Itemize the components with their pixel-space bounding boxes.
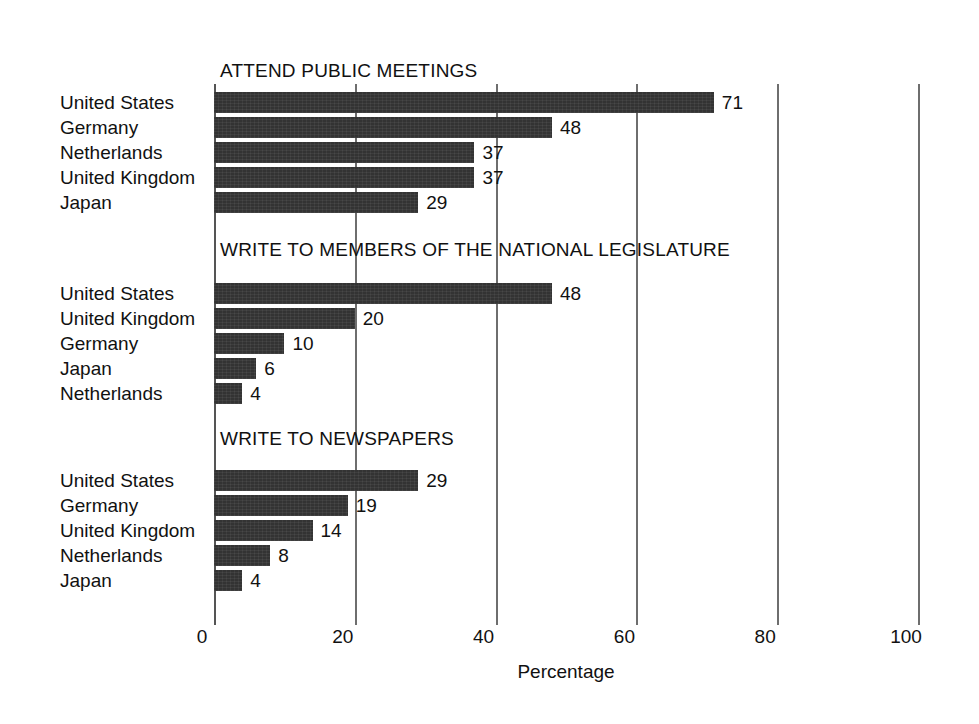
bar-value-label: 10 xyxy=(292,333,313,355)
gridline-0 xyxy=(214,84,216,625)
x-tick-label-100: 100 xyxy=(890,626,922,648)
category-label-text: United Kingdom xyxy=(60,520,195,542)
bar-value-label: 6 xyxy=(264,358,275,380)
plot-area: ATTEND PUBLIC MEETINGSUnited States71Ger… xyxy=(214,84,918,625)
bar-value-label: 37 xyxy=(482,167,503,189)
category-label-text: United Kingdom xyxy=(60,308,195,330)
bar-row: United Kingdom37 xyxy=(214,167,918,188)
bar-value-label: 14 xyxy=(321,520,342,542)
category-label-text: Netherlands xyxy=(60,545,162,567)
category-label-text: Germany xyxy=(60,495,138,517)
x-tick-label-40: 40 xyxy=(473,626,494,648)
bar-value-label: 29 xyxy=(426,192,447,214)
bar xyxy=(214,383,242,404)
bar-row: United Kingdom14 xyxy=(214,520,918,541)
bar xyxy=(214,570,242,591)
category-label-text: Germany xyxy=(60,117,138,139)
bar-value-label: 37 xyxy=(482,142,503,164)
bar xyxy=(214,283,552,304)
category-label-text: United States xyxy=(60,470,174,492)
bar-row: Netherlands8 xyxy=(214,545,918,566)
bar xyxy=(214,308,355,329)
bar-value-label: 4 xyxy=(250,570,261,592)
category-label-text: United Kingdom xyxy=(60,167,195,189)
bar-value-label: 71 xyxy=(722,92,743,114)
bar-row: Japan29 xyxy=(214,192,918,213)
category-label-text: Netherlands xyxy=(60,142,162,164)
bar-value-label: 19 xyxy=(356,495,377,517)
x-tick-label-60: 60 xyxy=(614,626,635,648)
bar xyxy=(214,167,474,188)
bar-row: Japan4 xyxy=(214,570,918,591)
bar xyxy=(214,495,348,516)
bar xyxy=(214,117,552,138)
bar xyxy=(214,333,284,354)
gridline-60 xyxy=(636,84,638,625)
bar-row: Netherlands37 xyxy=(214,142,918,163)
category-label-text: United States xyxy=(60,92,174,114)
bar-row: United Kingdom20 xyxy=(214,308,918,329)
bar-row: United States48 xyxy=(214,283,918,304)
bar xyxy=(214,192,418,213)
category-label-text: Japan xyxy=(60,358,112,380)
bar-chart: ATTEND PUBLIC MEETINGSUnited States71Ger… xyxy=(0,0,979,724)
bar-row: Netherlands4 xyxy=(214,383,918,404)
x-tick-label-0: 0 xyxy=(197,626,208,648)
gridline-40 xyxy=(496,84,498,625)
bar xyxy=(214,142,474,163)
gridline-100 xyxy=(918,84,920,625)
bar-value-label: 20 xyxy=(363,308,384,330)
bar xyxy=(214,545,270,566)
category-label-text: United States xyxy=(60,283,174,305)
category-label-text: Japan xyxy=(60,570,112,592)
bar-value-label: 4 xyxy=(250,383,261,405)
group-title: WRITE TO NEWSPAPERS xyxy=(220,428,454,450)
bar-value-label: 29 xyxy=(426,470,447,492)
x-tick-label-80: 80 xyxy=(755,626,776,648)
gridline-80 xyxy=(777,84,779,625)
category-label-text: Germany xyxy=(60,333,138,355)
bar xyxy=(214,358,256,379)
bar xyxy=(214,520,313,541)
bar-row: Japan6 xyxy=(214,358,918,379)
group-title: WRITE TO MEMBERS OF THE NATIONAL LEGISLA… xyxy=(220,239,730,261)
bar-row: United States71 xyxy=(214,92,918,113)
bar xyxy=(214,470,418,491)
bar-row: Germany10 xyxy=(214,333,918,354)
category-label-text: Netherlands xyxy=(60,383,162,405)
bar-row: United States29 xyxy=(214,470,918,491)
bar-value-label: 48 xyxy=(560,283,581,305)
x-tick-label-20: 20 xyxy=(332,626,353,648)
x-axis-title: Percentage xyxy=(517,661,614,683)
bar-value-label: 48 xyxy=(560,117,581,139)
gridline-20 xyxy=(355,84,357,625)
bar xyxy=(214,92,714,113)
group-title: ATTEND PUBLIC MEETINGS xyxy=(220,60,477,82)
bar-row: Germany19 xyxy=(214,495,918,516)
category-label-text: Japan xyxy=(60,192,112,214)
bar-value-label: 8 xyxy=(278,545,289,567)
bar-row: Germany48 xyxy=(214,117,918,138)
